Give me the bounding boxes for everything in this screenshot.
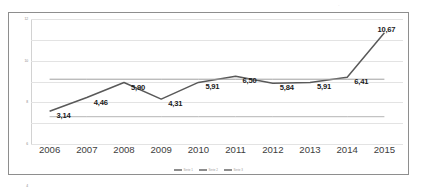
legend-item[interactable]: Serie 3 [224,168,243,172]
data-point-label: 6,41 [354,77,368,86]
chart-legend: Serie 1Serie 2Serie 3 [9,168,408,172]
y-axis-tick-label: 8 [26,100,28,104]
data-point-label: 10,67 [377,24,395,33]
legend-swatch-icon [199,169,207,170]
x-axis-tick-label: 2009 [151,144,172,155]
legend-label: Serie 3 [234,168,244,172]
legend-item[interactable]: Serie 1 [174,168,193,172]
x-axis-tick-label: 2006 [39,144,60,155]
legend-label: Serie 1 [183,168,193,172]
x-axis-labels: 2006200720082009201020112012201320142015 [31,144,403,158]
data-point-label: 5,91 [205,82,219,91]
data-point-label: 5,84 [280,83,294,92]
x-axis-tick-label: 2012 [262,144,283,155]
x-axis-tick-label: 2011 [225,144,246,155]
y-axis-tick-label: 12 [24,17,28,21]
data-point-label: 4,31 [168,99,182,108]
y-axis-tick-label: 6 [26,142,28,146]
data-point-label: 4,46 [94,97,108,106]
x-axis-tick-label: 2010 [188,144,209,155]
x-axis-tick-label: 2014 [337,144,358,155]
y-axis-tick-label: 10 [24,59,28,63]
plot-area: 024681012 3,144,465,904,315,916,505,845,… [31,19,403,144]
data-point-label: 3,14 [57,111,71,120]
x-axis-tick-label: 2008 [113,144,134,155]
legend-swatch-icon [174,169,182,170]
x-axis-tick-label: 2013 [299,144,320,155]
chart-container: 024681012 3,144,465,904,315,916,505,845,… [8,12,409,175]
data-point-label: 6,50 [243,76,257,85]
y-axis-tick-label: 4 [26,184,28,188]
data-point-label: 5,91 [317,82,331,91]
x-axis-tick-label: 2015 [374,144,395,155]
legend-item[interactable]: Serie 2 [199,168,218,172]
legend-label: Serie 2 [208,168,218,172]
legend-swatch-icon [224,169,232,170]
x-axis-tick-label: 2007 [76,144,97,155]
scan-speckle-top-right: · [338,2,340,8]
data-point-label: 5,90 [131,82,145,91]
